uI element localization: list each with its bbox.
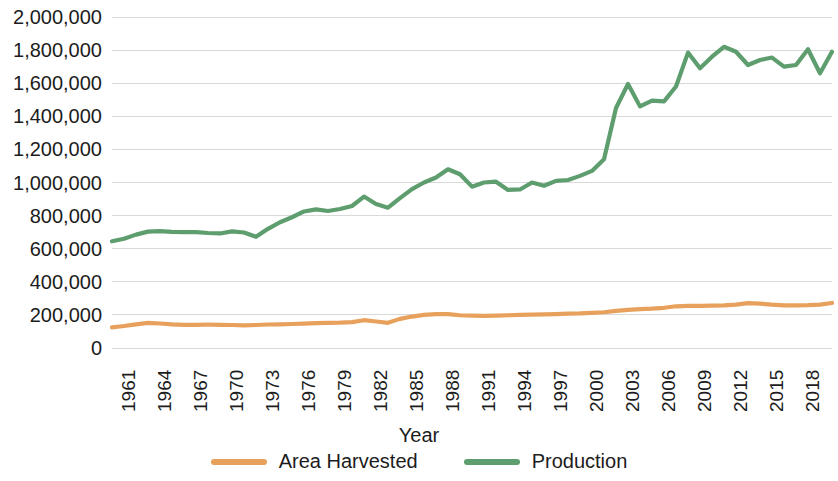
legend-label: Production [532, 450, 628, 473]
x-axis-tick-label: 1982 [371, 370, 390, 412]
x-axis-tick-label: 1994 [515, 370, 534, 412]
x-axis-tick-label: 1967 [191, 370, 210, 412]
x-axis-tick-label: 1991 [479, 370, 498, 412]
x-axis-tick-label: 2003 [623, 370, 642, 412]
x-axis-tick-label: 1964 [155, 370, 174, 412]
x-axis-tick-label: 2018 [803, 370, 822, 412]
x-axis-tick-label: 2015 [767, 370, 786, 412]
legend-item[interactable]: Area Harvested [211, 450, 418, 473]
legend-swatch-icon [211, 459, 267, 465]
line-chart: 0200,000400,000600,000800,0001,000,0001,… [0, 0, 838, 481]
x-axis-tick-label: 1988 [443, 370, 462, 412]
x-axis-title: Year [0, 424, 838, 447]
x-axis-tick-label: 2000 [587, 370, 606, 412]
x-axis-tick-label: 1976 [299, 370, 318, 412]
legend-item[interactable]: Production [464, 450, 628, 473]
x-axis-tick-label: 1985 [407, 370, 426, 412]
series-line-production [112, 47, 832, 241]
x-axis-tick-label: 1997 [551, 370, 570, 412]
legend-label: Area Harvested [279, 450, 418, 473]
x-axis-tick-label: 2012 [731, 370, 750, 412]
x-axis-tick-label: 1970 [227, 370, 246, 412]
chart-legend: Area HarvestedProduction [0, 450, 838, 473]
x-axis-tick-label: 1961 [119, 370, 138, 412]
x-axis-tick-label: 1973 [263, 370, 282, 412]
legend-swatch-icon [464, 459, 520, 465]
x-axis-tick-label: 1979 [335, 370, 354, 412]
x-axis-tick-label: 2009 [695, 370, 714, 412]
x-axis-tick-label: 2006 [659, 370, 678, 412]
